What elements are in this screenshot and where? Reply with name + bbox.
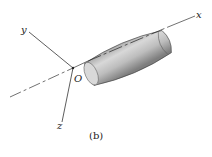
origin-point [72,67,74,69]
y-axis-label: y [20,24,27,35]
figure-caption: (b) [89,130,103,141]
y-axis [29,32,73,68]
z-axis-label: z [56,120,63,131]
diagram: x y z O (b) [0,0,212,157]
z-axis [62,68,73,122]
x-axis-label: x [196,9,202,20]
x-axis-negative [10,68,73,97]
origin-label: O [74,73,82,84]
x-axis-positive [168,16,195,27]
